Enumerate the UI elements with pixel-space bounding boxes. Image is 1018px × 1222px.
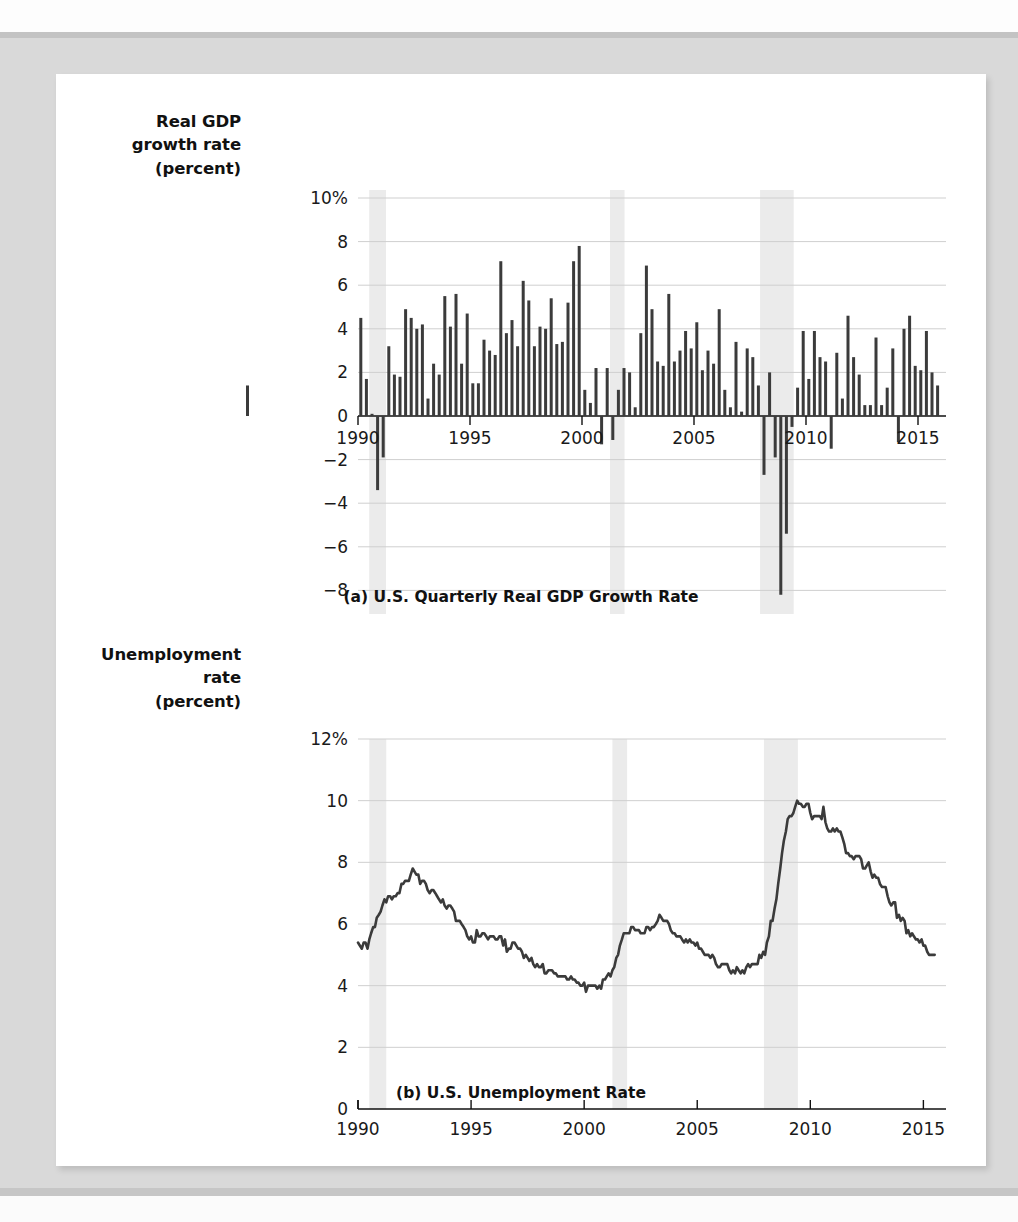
gdp-bar <box>919 370 922 416</box>
gdp-bar <box>466 314 469 416</box>
unemployment-xtick-label-5: 2015 <box>902 1119 945 1139</box>
gdp-bar <box>936 385 939 416</box>
gdp-axis-title: Real GDP growth rate (percent) <box>76 110 241 180</box>
gdp-bar <box>679 351 682 416</box>
gdp-bar <box>595 368 598 416</box>
gdp-bar <box>863 405 866 416</box>
gdp-bar <box>656 362 659 417</box>
gdp-bar <box>628 372 631 416</box>
gdp-axis-title-line-1: Real GDP <box>76 110 241 133</box>
gdp-bar <box>869 405 872 416</box>
gdp-bar <box>578 246 581 416</box>
gdp-bar <box>460 364 463 416</box>
unemployment-series-line <box>358 801 935 992</box>
gdp-bar <box>359 318 362 416</box>
gdp-bar <box>494 355 497 416</box>
gdp-bar <box>533 346 536 416</box>
gdp-bar <box>847 316 850 416</box>
unemployment-ytick-label-5: 2 <box>337 1037 348 1057</box>
gdp-bar <box>723 390 726 416</box>
gdp-bar <box>561 342 564 416</box>
unemployment-plot-group: 12%1086420199019952000200520102015 <box>310 729 946 1139</box>
unemployment-ytick-label-2: 8 <box>337 852 348 872</box>
gdp-bar <box>455 294 458 416</box>
unemployment-ytick-label-4: 4 <box>337 976 348 996</box>
gdp-bar <box>690 348 693 416</box>
gdp-bar <box>427 399 430 416</box>
gdp-bar <box>858 375 861 416</box>
gdp-bar <box>807 379 810 416</box>
gdp-bar <box>382 416 385 457</box>
gdp-bar <box>527 300 530 416</box>
unemployment-ytick-label-3: 6 <box>337 914 348 934</box>
gdp-bar <box>908 316 911 416</box>
unemployment-xtick-label-1: 1995 <box>449 1119 492 1139</box>
gdp-bar <box>555 344 558 416</box>
gdp-bar <box>931 372 934 416</box>
gdp-bar <box>712 364 715 416</box>
gdp-bar <box>735 342 738 416</box>
unemployment-xtick-label-4: 2010 <box>789 1119 832 1139</box>
gdp-bar <box>393 375 396 416</box>
gdp-axis-title-line-3: (percent) <box>76 157 241 180</box>
scan-top-rule <box>0 32 1018 38</box>
gdp-bar <box>617 390 620 416</box>
gdp-bar <box>707 351 710 416</box>
gdp-bar <box>802 331 805 416</box>
gdp-bar <box>471 383 474 416</box>
gdp-ytick-label-3: 4 <box>337 319 348 339</box>
gdp-bar <box>544 329 547 416</box>
gdp-bar <box>477 383 480 416</box>
scan-top-edge <box>0 0 1018 32</box>
gdp-bar <box>835 353 838 416</box>
unemployment-axis-title-line-2: rate <box>56 666 241 689</box>
gdp-bar <box>246 385 249 416</box>
gdp-bar <box>824 362 827 417</box>
gdp-bar <box>550 298 553 416</box>
unemployment-xtick-label-3: 2005 <box>676 1119 719 1139</box>
gdp-bar <box>589 403 592 416</box>
gdp-bar <box>611 416 614 440</box>
gdp-bar <box>567 303 570 416</box>
gdp-bar <box>875 338 878 416</box>
gdp-bar <box>903 329 906 416</box>
gdp-bar <box>729 407 732 416</box>
gdp-bar <box>371 414 374 416</box>
gdp-bar <box>746 348 749 416</box>
gdp-bar <box>891 348 894 416</box>
gdp-bar <box>751 357 754 416</box>
gdp-ytick-label-1: 8 <box>337 232 348 252</box>
gdp-bar <box>841 399 844 416</box>
figure-panel: Real GDP growth rate (percent) 10%86420−… <box>56 74 986 1166</box>
gdp-bar <box>449 327 452 416</box>
gdp-ytick-label-0: 10% <box>310 188 348 208</box>
unemployment-axis-title: Unemployment rate (percent) <box>56 643 241 713</box>
gdp-ytick-label-4: 2 <box>337 362 348 382</box>
gdp-bar <box>684 331 687 416</box>
gdp-xtick-label-5: 2015 <box>896 428 939 448</box>
gdp-xtick-label-2: 2000 <box>560 428 603 448</box>
gdp-xtick-label-3: 2005 <box>672 428 715 448</box>
gdp-bar <box>886 388 889 416</box>
scanned-page-background: Real GDP growth rate (percent) 10%86420−… <box>0 0 1018 1222</box>
unemployment-xtick-label-2: 2000 <box>563 1119 606 1139</box>
gdp-bar <box>774 416 777 457</box>
gdp-bar <box>539 327 542 416</box>
gdp-xtick-label-1: 1995 <box>448 428 491 448</box>
gdp-bar <box>505 333 508 416</box>
gdp-bar <box>522 281 525 416</box>
gdp-bar <box>634 407 637 416</box>
gdp-ytick-label-6: −2 <box>323 450 348 470</box>
gdp-bar <box>880 405 883 416</box>
gdp-bar <box>914 366 917 416</box>
gdp-bar <box>516 346 519 416</box>
gdp-bar <box>645 266 648 416</box>
scan-bottom-edge <box>0 1196 1018 1222</box>
gdp-bar <box>768 372 771 416</box>
gdp-bar <box>583 390 586 416</box>
gdp-recession-band-0 <box>369 190 386 614</box>
gdp-bar <box>387 346 390 416</box>
gdp-bar <box>606 368 609 416</box>
gdp-axis-title-line-2: growth rate <box>76 133 241 156</box>
unemployment-axis-title-line-3: (percent) <box>56 690 241 713</box>
